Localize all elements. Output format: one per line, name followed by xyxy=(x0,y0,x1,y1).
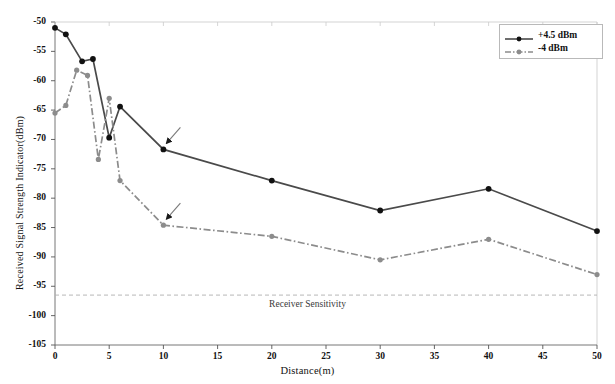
x-tick-label: 15 xyxy=(203,351,233,361)
data-point-marker xyxy=(106,135,112,141)
legend-item-series-2: -4 dBm xyxy=(504,41,598,54)
data-point-marker xyxy=(63,103,68,108)
annotation-arrow xyxy=(166,127,180,143)
data-series-group xyxy=(52,25,600,277)
y-tick-label: -95 xyxy=(12,280,46,290)
legend: +4.5 dBm -4 dBm xyxy=(499,24,603,59)
x-axis-title: Distance(m) xyxy=(0,365,615,376)
receiver-sensitivity-label: Receiver Sensitivity xyxy=(0,299,615,309)
x-tick-label: 10 xyxy=(148,351,178,361)
y-tick-label: -55 xyxy=(12,45,46,55)
y-tick-label: -75 xyxy=(12,163,46,173)
x-tick-label: 5 xyxy=(94,351,124,361)
y-tick-label: -80 xyxy=(12,192,46,202)
data-point-marker xyxy=(85,73,90,78)
data-point-marker xyxy=(161,223,166,228)
x-tick-label: 45 xyxy=(528,351,558,361)
series-line-2 xyxy=(55,70,597,274)
data-point-marker xyxy=(377,208,383,214)
y-tick-label: -100 xyxy=(12,310,46,320)
x-tick-label: 40 xyxy=(474,351,504,361)
y-tick-label: -70 xyxy=(12,133,46,143)
data-point-marker xyxy=(594,228,600,234)
x-tick-label: 35 xyxy=(419,351,449,361)
data-point-marker xyxy=(63,31,69,37)
x-tick-label: 30 xyxy=(365,351,395,361)
data-point-marker xyxy=(79,58,85,64)
data-point-marker xyxy=(269,178,275,184)
x-tick-label: 20 xyxy=(257,351,287,361)
chart-figure: Received Signal Strength Indicator(dBm) … xyxy=(0,0,615,384)
annotation-arrow xyxy=(166,203,180,219)
data-point-marker xyxy=(107,96,112,101)
y-tick-label: -105 xyxy=(12,339,46,349)
legend-swatch-solid xyxy=(504,30,534,40)
data-point-marker xyxy=(74,68,79,73)
y-tick-label: -50 xyxy=(12,16,46,26)
legend-label-series-2: -4 dBm xyxy=(538,43,568,53)
data-point-marker xyxy=(117,104,123,110)
legend-item-series-1: +4.5 dBm xyxy=(504,28,598,41)
y-axis-ticks xyxy=(51,22,55,345)
data-point-marker xyxy=(117,178,122,183)
y-tick-label: -65 xyxy=(12,104,46,114)
legend-label-series-1: +4.5 dBm xyxy=(538,30,577,40)
data-point-marker xyxy=(486,186,492,192)
x-tick-label: 25 xyxy=(311,351,341,361)
data-point-marker xyxy=(52,25,58,31)
x-tick-label: 0 xyxy=(40,351,70,361)
data-point-marker xyxy=(378,257,383,262)
data-point-marker xyxy=(161,147,167,153)
y-tick-label: -90 xyxy=(12,251,46,261)
data-point-marker xyxy=(269,234,274,239)
y-tick-label: -85 xyxy=(12,222,46,232)
data-point-marker xyxy=(96,157,101,162)
data-point-marker xyxy=(52,110,57,115)
data-point-marker xyxy=(90,56,96,62)
annotation-arrow-group xyxy=(166,127,180,219)
y-tick-label: -60 xyxy=(12,75,46,85)
data-point-marker xyxy=(486,237,491,242)
plot-frame xyxy=(55,22,597,345)
legend-swatch-dashdot xyxy=(504,43,534,53)
x-tick-label: 50 xyxy=(582,351,612,361)
data-point-marker xyxy=(594,272,599,277)
